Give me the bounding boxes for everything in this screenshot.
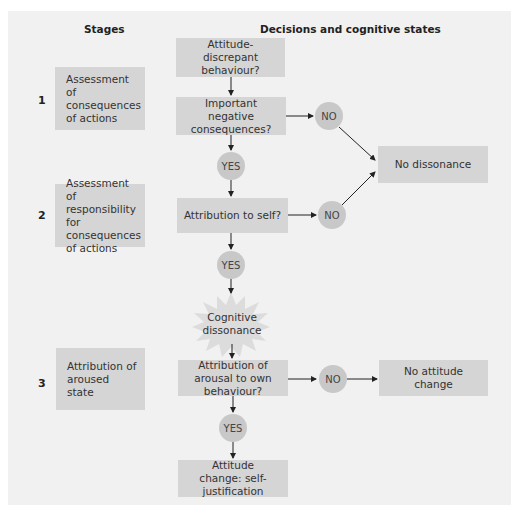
decision-important-negative: Important negative consequences? <box>176 97 286 135</box>
cognitive-dissonance-label: Cognitive dissonance <box>196 311 268 337</box>
no-node-2: NO <box>318 201 346 229</box>
decision-attribution-self-label: Attribution to self? <box>184 209 281 222</box>
yes-node-2-label: YES <box>222 260 241 271</box>
yes-node-3-label: YES <box>224 423 243 434</box>
stage-box-3: Attribution of aroused state <box>56 348 145 410</box>
stage-label-2: Assessment of responsibility for consequ… <box>66 177 141 255</box>
stage-number-3: 3 <box>38 377 46 390</box>
decision-attribution-self: Attribution to self? <box>177 198 288 233</box>
yes-node-3: YES <box>219 414 247 442</box>
stage-number-1: 1 <box>38 94 46 107</box>
no-node-3: NO <box>319 365 347 393</box>
stage-label-1: Assessment of consequences of actions <box>66 73 141 125</box>
outcome-no-attitude-change: No attitude change <box>379 360 488 396</box>
stage-number-2: 2 <box>38 209 46 222</box>
decision-attitude-discrepant-label: Attitude-discrepant behaviour? <box>190 38 271 77</box>
yes-node-1-label: YES <box>222 161 241 172</box>
outcome-no-dissonance: No dissonance <box>378 146 488 183</box>
outcome-no-attitude-change-label: No attitude change <box>399 365 468 391</box>
no-node-1-label: NO <box>321 111 336 122</box>
no-node-3-label: NO <box>325 374 340 385</box>
decision-attribution-arousal: Attribution of arousal to own behaviour? <box>178 360 288 396</box>
no-node-2-label: NO <box>324 210 339 221</box>
stage-label-3: Attribution of aroused state <box>67 360 137 399</box>
decision-attitude-discrepant: Attitude-discrepant behaviour? <box>176 38 285 77</box>
yes-node-1: YES <box>217 152 245 180</box>
decision-important-negative-label: Important negative consequences? <box>186 97 276 136</box>
decision-attribution-arousal-label: Attribution of arousal to own behaviour? <box>182 359 284 398</box>
stages-header: Stages <box>84 23 125 35</box>
yes-node-2: YES <box>217 251 245 279</box>
outcome-attitude-change: Attitude change: self-justification <box>178 460 288 497</box>
stage-box-2: Assessment of responsibility for consequ… <box>55 184 145 247</box>
decisions-header: Decisions and cognitive states <box>260 23 441 35</box>
no-node-1: NO <box>315 102 343 130</box>
outcome-no-dissonance-label: No dissonance <box>395 158 472 171</box>
outcome-attitude-change-label: Attitude change: self-justification <box>192 459 274 498</box>
stage-box-1: Assessment of consequences of actions <box>55 67 145 130</box>
